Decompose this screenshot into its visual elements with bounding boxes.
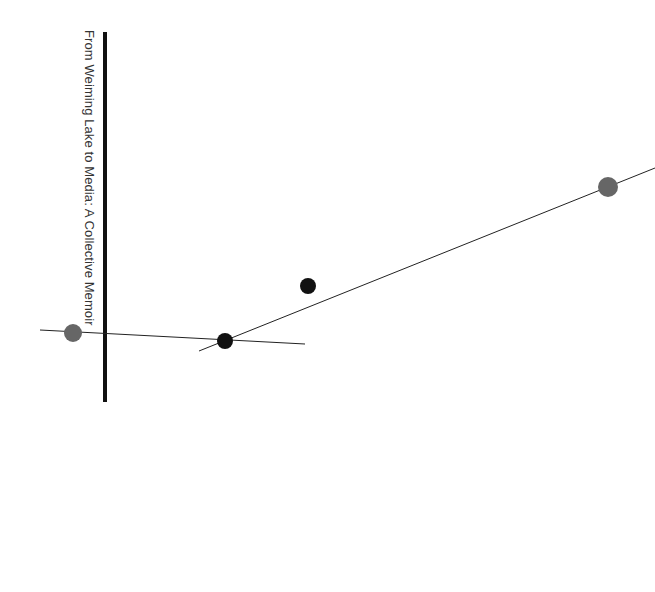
gray-node-left bbox=[64, 324, 82, 342]
diagram-canvas bbox=[0, 0, 655, 592]
gray-node-right bbox=[598, 177, 618, 197]
diagonal-line bbox=[199, 168, 655, 351]
black-node-intersection bbox=[217, 333, 233, 349]
diagram-title: From Weiming Lake to Media: A Collective… bbox=[82, 30, 97, 326]
black-node-upper bbox=[300, 278, 316, 294]
vertical-axis-bar bbox=[103, 32, 107, 402]
